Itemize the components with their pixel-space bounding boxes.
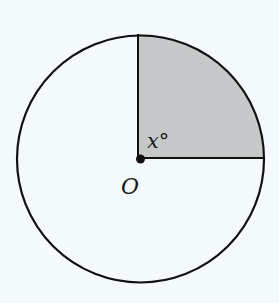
circle-sector-figure: x° O bbox=[0, 0, 279, 303]
center-point bbox=[136, 155, 145, 164]
center-label: O bbox=[121, 174, 139, 199]
angle-label: x° bbox=[147, 129, 169, 153]
diagram-canvas: x° O bbox=[0, 0, 279, 303]
